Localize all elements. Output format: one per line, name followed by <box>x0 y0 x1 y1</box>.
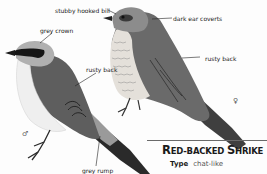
species-title: RED-BACKED SHRIKE <box>162 143 263 157</box>
female-legs <box>118 98 140 116</box>
field-value: chat-like <box>193 160 223 168</box>
leader-female-rusty-back <box>182 57 200 58</box>
female-ear-coverts <box>119 15 133 22</box>
male-symbol: ♂ <box>22 130 28 138</box>
title-rest-1: ED-BACKED <box>171 146 227 156</box>
title-initial-1: R <box>162 143 171 157</box>
label-grey-rump: grey rump <box>82 167 113 174</box>
species-field-type: Typechat-like <box>170 160 223 168</box>
field-key: Type <box>170 160 188 168</box>
label-grey-crown: grey crown <box>40 27 73 34</box>
leader-male-rusty-back <box>75 73 96 86</box>
female-eye <box>121 15 124 18</box>
female-bill <box>103 16 112 21</box>
label-female-rusty-back: rusty back <box>205 55 236 62</box>
leader-grey-crown <box>40 33 52 43</box>
label-stubby-hooked-bill: stubby hooked bill <box>55 7 110 14</box>
female-shrike-illustration <box>103 7 246 150</box>
male-bill <box>5 50 15 56</box>
label-dark-ear-coverts: dark ear coverts <box>173 15 222 22</box>
heading-divider <box>147 140 267 141</box>
title-rest-2: HRIKE <box>235 146 263 156</box>
field-guide-page: stubby hooked bill dark ear coverts rust… <box>0 0 267 174</box>
female-symbol: ♀ <box>233 97 238 105</box>
male-legs <box>28 130 50 160</box>
label-male-rusty-back: rusty back <box>86 66 117 73</box>
title-initial-2: S <box>227 143 235 157</box>
